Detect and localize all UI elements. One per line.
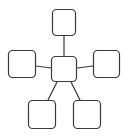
node-bottom-right <box>74 101 101 129</box>
connector-center-bottom-left <box>48 82 57 100</box>
node-center <box>52 57 77 82</box>
node-right <box>94 51 120 78</box>
hub-spoke-diagram <box>0 0 128 136</box>
connector-center-right <box>77 66 93 68</box>
node-bottom-left <box>29 101 56 129</box>
diagram-nodes <box>9 10 120 129</box>
node-top <box>53 10 76 36</box>
connector-center-left <box>36 66 51 68</box>
connector-center-bottom-right <box>71 82 80 100</box>
node-left <box>9 51 36 78</box>
